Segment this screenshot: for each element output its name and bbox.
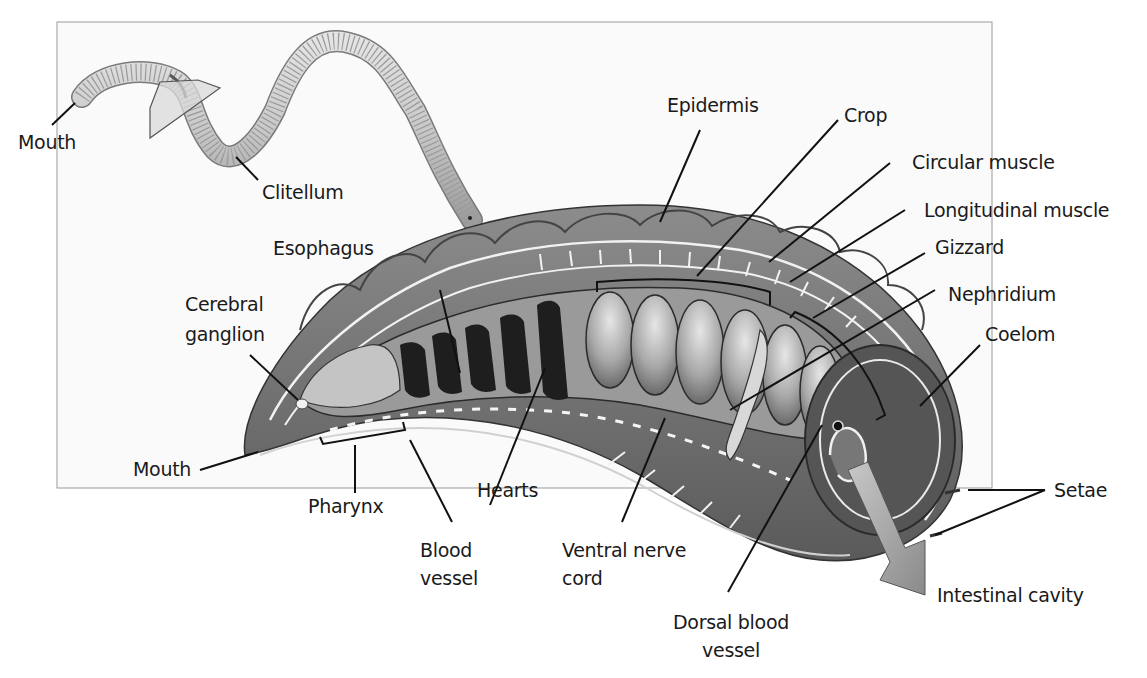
label-epidermis: Epidermis xyxy=(667,93,759,118)
label-mouth-top: Mouth xyxy=(18,130,76,155)
label-pharynx: Pharynx xyxy=(308,494,383,519)
label-intestinal-cavity: Intestinal cavity xyxy=(937,583,1084,608)
label-cerebral-ganglion-line2: ganglion xyxy=(185,322,265,347)
label-circular-muscle: Circular muscle xyxy=(912,150,1055,175)
label-clitellum: Clitellum xyxy=(262,180,343,205)
label-hearts: Hearts xyxy=(477,478,538,503)
label-coelom: Coelom xyxy=(985,322,1055,347)
earthworm-anatomy-figure: Mouth Clitellum Epidermis Crop Circular … xyxy=(0,0,1147,678)
label-mouth-bottom: Mouth xyxy=(133,457,191,482)
label-ventral-nerve-cord-line1: Ventral nerve xyxy=(562,538,686,563)
label-dorsal-blood-vessel-line2: vessel xyxy=(656,638,806,663)
label-crop: Crop xyxy=(844,103,887,128)
label-esophagus: Esophagus xyxy=(273,236,374,261)
label-cerebral-ganglion-line1: Cerebral xyxy=(185,292,263,317)
label-blood-vessel-line1: Blood xyxy=(420,538,472,563)
label-longitudinal-muscle: Longitudinal muscle xyxy=(924,198,1109,223)
label-dorsal-blood-vessel-line1: Dorsal blood xyxy=(656,610,806,635)
label-setae: Setae xyxy=(1054,478,1107,503)
label-ventral-nerve-cord-line2: cord xyxy=(562,566,602,591)
label-gizzard: Gizzard xyxy=(935,235,1004,260)
label-blood-vessel-line2: vessel xyxy=(420,566,478,591)
label-nephridium: Nephridium xyxy=(948,282,1056,307)
